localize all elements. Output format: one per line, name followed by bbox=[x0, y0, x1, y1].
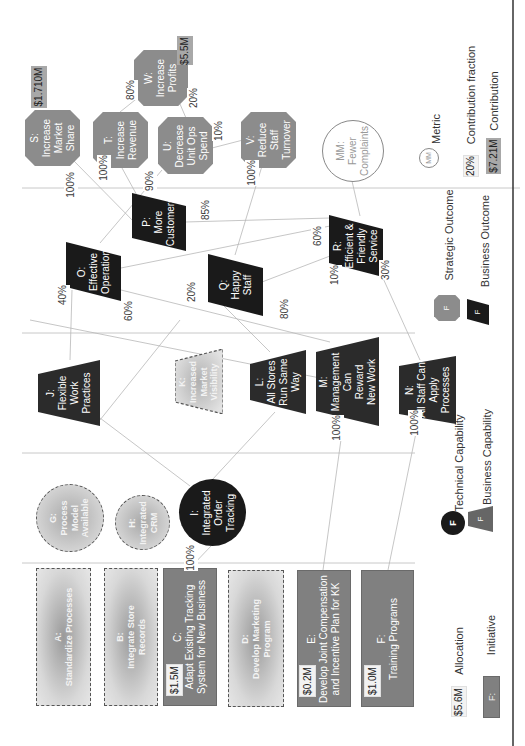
node-label: G: bbox=[48, 498, 59, 537]
node-text: Run Same bbox=[278, 358, 290, 405]
legend-technical-capability-label: Technical Capability bbox=[451, 418, 468, 508]
initiative-b[interactable]: B: Integrate Store Records bbox=[104, 568, 158, 706]
fraction-r-p: 85% bbox=[199, 200, 213, 220]
node-text: Staff bbox=[269, 120, 281, 160]
strategic-outcome-s[interactable]: S: Increase Market Share bbox=[25, 110, 80, 166]
business-capability-m[interactable]: M: Management Can Reward New Work bbox=[316, 337, 379, 426]
node-text: Increase bbox=[41, 119, 53, 157]
node-text: Develop Joint Compensation bbox=[318, 575, 330, 703]
legend-metric-label: Metric bbox=[428, 112, 445, 146]
legend-initiative-symbol: F: bbox=[483, 676, 500, 718]
node-text: Reward bbox=[354, 352, 366, 410]
node-label: I: bbox=[189, 490, 201, 535]
node-text: Tracking bbox=[225, 490, 237, 535]
node-text: Work bbox=[69, 372, 81, 413]
node-text: Records bbox=[136, 605, 147, 669]
fraction-j-o: 40% bbox=[56, 285, 70, 305]
node-text: Adapt Existing Tracking bbox=[184, 580, 196, 694]
node-text: Fewer bbox=[347, 126, 359, 176]
legend-business-outcome-symbol: F bbox=[467, 299, 489, 325]
node-text: Unit Ops bbox=[186, 124, 198, 167]
fraction-l-q: 20% bbox=[185, 282, 199, 302]
metric-mm[interactable]: MM: Fewer Complaints bbox=[322, 120, 384, 182]
business-outcome-q[interactable]: Q: Happy Staff bbox=[208, 254, 263, 316]
node-label: A: bbox=[53, 588, 64, 687]
legend-contribution-fraction-symbol: 20% bbox=[463, 155, 479, 177]
allocation-badge-e: $0.2M bbox=[299, 665, 316, 697]
business-capability-j[interactable]: J: Flexible Work Practices bbox=[38, 360, 100, 426]
node-text: Staff bbox=[242, 271, 254, 300]
node-text: Happy bbox=[230, 271, 242, 300]
node-text: Flexible bbox=[57, 372, 69, 413]
node-text: Operation bbox=[100, 250, 112, 294]
legend-contribution-label: Contribution bbox=[486, 66, 503, 136]
node-text: Turnover bbox=[281, 120, 293, 160]
technical-capability-i[interactable]: I: Integrated Order Tracking bbox=[179, 479, 246, 546]
legend-business-capability-label: Business Capability bbox=[479, 412, 496, 502]
business-capability-k[interactable]: K: Increased Market Visibility bbox=[175, 349, 223, 414]
node-text: Friendly bbox=[356, 224, 368, 269]
node-text: Increase bbox=[155, 59, 167, 97]
node-label: MM: bbox=[335, 126, 347, 176]
legend-contribution-fraction-label: Contribution fraction bbox=[463, 40, 480, 150]
node-text: Efficient & bbox=[344, 224, 356, 269]
initiative-a[interactable]: A: Standardize Processes bbox=[36, 568, 91, 706]
fraction-q-r: 10% bbox=[328, 265, 342, 285]
fraction-o-r: 60% bbox=[311, 226, 325, 246]
allocation-badge-c: $1.5M bbox=[166, 664, 183, 696]
business-outcome-o[interactable]: O: Effective Operation bbox=[66, 242, 121, 301]
node-text: Revenue bbox=[127, 120, 139, 160]
node-text: Integrated bbox=[201, 490, 213, 535]
node-text: Practices bbox=[81, 372, 93, 413]
node-text: Apply bbox=[428, 362, 440, 417]
node-text: System for New Business bbox=[196, 580, 208, 694]
node-text: Visibility bbox=[210, 360, 221, 402]
node-text: Program bbox=[261, 598, 272, 678]
node-label: K: bbox=[177, 360, 188, 402]
node-label: B: bbox=[115, 605, 126, 669]
fraction-i-c: 100% bbox=[184, 545, 198, 571]
node-text: Order bbox=[213, 490, 225, 535]
node-text: Reduce bbox=[257, 120, 269, 160]
node-label: D: bbox=[240, 598, 251, 678]
node-text: New Work bbox=[366, 352, 378, 410]
legend-strategic-outcome-symbol: F bbox=[434, 295, 460, 321]
fraction-m-q: 80% bbox=[278, 299, 292, 319]
fraction-e-m: 100% bbox=[330, 415, 344, 441]
node-text: Integrate Store bbox=[126, 605, 137, 669]
legend-strategic-outcome-label: Strategic Outcome bbox=[441, 190, 458, 280]
node-text: Decrease bbox=[174, 124, 186, 167]
node-text: Management bbox=[330, 352, 342, 410]
node-text: and Incentive Plan for KK bbox=[330, 575, 342, 703]
business-capability-l[interactable]: L: All Stores Run Same Way bbox=[250, 350, 306, 414]
node-text: Can bbox=[342, 352, 354, 410]
node-text: Develop Marketing bbox=[251, 598, 262, 678]
technical-capability-g[interactable]: G: Process Model Available bbox=[36, 484, 104, 552]
node-label: U: bbox=[162, 124, 174, 167]
node-text: Customers bbox=[165, 198, 177, 246]
technical-capability-h[interactable]: H: Integrated CRM bbox=[115, 495, 170, 550]
fraction-v-q: 100% bbox=[245, 160, 259, 186]
node-text: Increase bbox=[115, 120, 127, 160]
node-text: Process bbox=[59, 498, 70, 537]
allocation-badge-f: $1.0M bbox=[364, 665, 381, 697]
node-label: S: bbox=[29, 119, 41, 157]
initiative-d[interactable]: D: Develop Marketing Program bbox=[228, 570, 284, 707]
fraction-m-o: 60% bbox=[122, 301, 136, 321]
node-text: Standardize Processes bbox=[64, 588, 75, 687]
fraction-t-w: 80% bbox=[124, 80, 138, 100]
node-label: Q: bbox=[218, 271, 230, 300]
business-outcome-p[interactable]: P: More Customers bbox=[132, 193, 186, 251]
node-text: Share bbox=[65, 119, 77, 157]
strategic-outcome-u[interactable]: U: Decrease Unit Ops Spend bbox=[158, 117, 213, 174]
node-text: Available bbox=[81, 498, 92, 537]
node-text: Model bbox=[70, 498, 81, 537]
legend-technical-capability-symbol: F bbox=[441, 511, 465, 535]
legend-business-capability-symbol: F bbox=[468, 506, 493, 532]
node-label: L: bbox=[254, 358, 266, 405]
fraction-s-p: 100% bbox=[64, 172, 78, 198]
node-text: Effective bbox=[88, 250, 100, 294]
node-text: More bbox=[153, 198, 165, 246]
fraction-t-p: 100% bbox=[97, 155, 111, 181]
node-text: Training Programs bbox=[388, 598, 400, 680]
